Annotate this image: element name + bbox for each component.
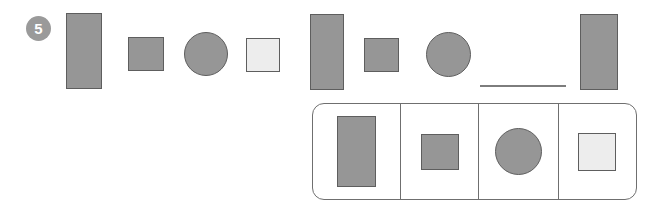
circle	[184, 32, 228, 76]
answer-options-box	[312, 103, 637, 200]
option-small-square[interactable]	[401, 104, 479, 199]
option-small-square-shape	[421, 134, 459, 170]
tall-rectangle	[66, 13, 102, 89]
option-light-square[interactable]	[559, 104, 635, 199]
option-circle[interactable]	[479, 104, 559, 199]
answer-blank[interactable]	[480, 85, 566, 87]
tall-rectangle	[580, 14, 618, 90]
option-light-square-shape	[578, 133, 616, 171]
circle	[426, 32, 471, 77]
tall-rectangle	[310, 14, 344, 90]
worksheet-question: 5	[0, 0, 663, 212]
option-tall-rectangle[interactable]	[313, 104, 401, 199]
light-square	[246, 38, 280, 72]
option-tall-rectangle-shape	[337, 116, 376, 187]
option-circle-shape	[495, 128, 542, 175]
small-square	[128, 37, 164, 71]
small-square	[364, 38, 399, 72]
question-number-badge: 5	[26, 16, 51, 41]
